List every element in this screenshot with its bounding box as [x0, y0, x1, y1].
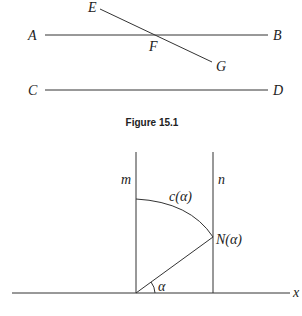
label-m: m	[121, 172, 131, 187]
label-f: F	[148, 39, 158, 54]
label-x: x	[292, 285, 300, 300]
ray-to-n-alpha	[136, 237, 213, 293]
label-d: D	[272, 83, 283, 98]
figure-2: m n c(α) N(α) α x	[12, 152, 300, 300]
label-b: B	[273, 28, 282, 43]
label-g: G	[216, 59, 226, 74]
label-a: A	[27, 28, 37, 43]
figure-15-1: A B E F G C D Figure 15.1	[27, 0, 283, 128]
figure-caption: Figure 15.1	[126, 117, 179, 128]
angle-arc	[151, 282, 155, 293]
label-c-alpha: c(α)	[169, 189, 192, 205]
label-alpha: α	[158, 279, 166, 294]
diagram-canvas: A B E F G C D Figure 15.1 m n c(α) N(α) …	[0, 0, 302, 316]
label-n: n	[218, 172, 225, 187]
label-e: E	[87, 0, 97, 15]
label-n-alpha: N(α)	[215, 232, 242, 248]
figure-svg: A B E F G C D Figure 15.1 m n c(α) N(α) …	[0, 0, 302, 316]
label-c: C	[28, 83, 38, 98]
curve-c-alpha	[136, 199, 213, 237]
